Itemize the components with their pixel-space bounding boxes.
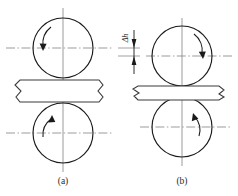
panel-b-top-roll-rotation-arc (194, 34, 202, 54)
panel-a-bottom-roll-arrowhead (48, 115, 55, 122)
rolling-diagram-svg: (a) Δh (0, 0, 238, 196)
rolling-diagram-figure: (a) Δh (0, 0, 238, 196)
delta-h-label: Δh (121, 34, 130, 44)
panel-b-bottom-roll-rotation-arc (195, 117, 200, 136)
panel-a-workpiece (15, 80, 103, 102)
panel-b: (b) (133, 18, 232, 187)
delta-h-lower-arrowhead (132, 56, 137, 65)
panel-a: (a) (6, 8, 112, 187)
panel-a-caption: (a) (58, 176, 69, 187)
panel-a-top-roll-rotation-arc (43, 27, 51, 46)
panel-b-top-roll-arrowhead (199, 52, 206, 59)
panel-a-top-roll-arrowhead (40, 44, 47, 52)
delta-h-upper-arrowhead (132, 39, 137, 48)
panel-b-workpiece (133, 86, 224, 100)
delta-h-dimension-group: Δh (118, 30, 140, 74)
panel-b-caption: (b) (176, 176, 187, 187)
